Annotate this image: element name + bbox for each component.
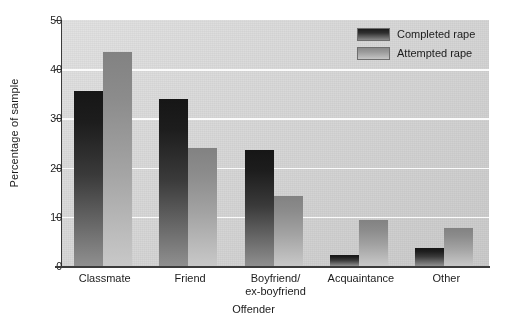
bar bbox=[359, 220, 388, 266]
bar bbox=[103, 52, 132, 266]
y-axis-tick-label: 40 bbox=[32, 63, 62, 75]
x-axis-line bbox=[55, 266, 490, 268]
x-axis-tick-label-line: Other bbox=[386, 272, 506, 285]
legend: Completed rape Attempted rape bbox=[357, 26, 475, 64]
bar bbox=[74, 91, 103, 266]
bar bbox=[330, 255, 359, 266]
legend-label-attempted-rape: Attempted rape bbox=[397, 47, 472, 59]
legend-swatch-attempted-rape bbox=[357, 47, 390, 60]
bar bbox=[188, 148, 217, 266]
x-axis-title: Offender bbox=[0, 303, 507, 315]
y-axis-tick-label: 10 bbox=[32, 211, 62, 223]
y-axis-tick-label: 30 bbox=[32, 112, 62, 124]
x-axis-tick-label: Other bbox=[386, 272, 506, 285]
bar bbox=[415, 248, 444, 266]
y-axis-title-text: Percentage of sample bbox=[7, 78, 19, 187]
bar-chart: Percentage of sample 01020304050 Complet… bbox=[0, 0, 507, 324]
legend-item-attempted: Attempted rape bbox=[357, 45, 475, 61]
bar bbox=[274, 196, 303, 266]
y-axis-tick-label: 20 bbox=[32, 162, 62, 174]
bar bbox=[444, 228, 473, 266]
legend-swatch-completed-rape bbox=[357, 28, 390, 41]
bar bbox=[159, 99, 188, 266]
y-axis-tick-label: 50 bbox=[32, 14, 62, 26]
x-axis-tick-label-line: ex-boyfriend bbox=[216, 285, 336, 298]
bar bbox=[245, 150, 274, 266]
legend-item-completed: Completed rape bbox=[357, 26, 475, 42]
legend-label-completed-rape: Completed rape bbox=[397, 28, 475, 40]
y-axis-title: Percentage of sample bbox=[2, 0, 24, 266]
